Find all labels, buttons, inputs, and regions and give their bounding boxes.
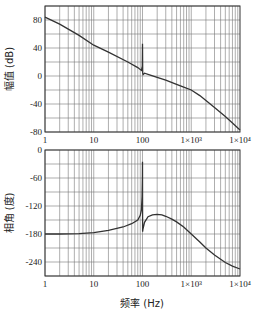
magnitude-y-axis-label: 幅值 (dB) <box>3 47 15 91</box>
phase-plot: 0-60-120-180-2401101001×10³1×10⁴ <box>26 145 251 289</box>
phase-y-tick-label: -180 <box>26 229 43 239</box>
phase-y-axis-label: 相角 (度) <box>3 192 15 233</box>
magnitude-y-tick-label: 80 <box>33 15 43 25</box>
magnitude-x-tick-label: 1 <box>43 135 48 145</box>
magnitude-y-tick-label: -80 <box>30 127 42 137</box>
phase-y-tick-label: 0 <box>38 145 43 155</box>
magnitude-x-tick-label: 1×10⁴ <box>229 135 251 145</box>
phase-x-tick-label: 1×10⁴ <box>229 279 251 289</box>
magnitude-y-tick-label: 40 <box>33 43 43 53</box>
phase-y-tick-label: -240 <box>26 257 43 267</box>
phase-x-tick-label: 1×10³ <box>181 279 203 289</box>
phase-x-tick-label: 10 <box>89 279 99 289</box>
magnitude-x-tick-label: 100 <box>136 135 150 145</box>
bode-plot: 80400-40-801101001×10³1×10⁴ 0-60-120-180… <box>0 0 253 316</box>
phase-y-tick-label: -60 <box>30 173 42 183</box>
magnitude-plot: 80400-40-801101001×10³1×10⁴ <box>30 6 251 145</box>
magnitude-x-tick-label: 1×10³ <box>181 135 203 145</box>
magnitude-y-tick-label: 0 <box>38 71 43 81</box>
magnitude-y-tick-label: -40 <box>30 99 42 109</box>
phase-y-tick-label: -120 <box>26 201 43 211</box>
magnitude-x-tick-label: 10 <box>89 135 99 145</box>
phase-x-tick-label: 100 <box>136 279 150 289</box>
x-axis-label: 频率 (Hz) <box>120 297 164 309</box>
phase-x-tick-label: 1 <box>43 279 48 289</box>
